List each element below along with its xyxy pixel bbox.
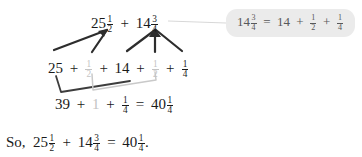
term-half-faded-2: 12 (152, 60, 159, 80)
numerator: 1 (122, 96, 129, 105)
operator-plus: + (293, 15, 306, 28)
denominator: 2 (49, 143, 56, 153)
numerator: 3 (93, 134, 100, 143)
callout-whole-14: 14 (277, 15, 290, 28)
arrow-quarter-to-top (156, 30, 182, 51)
operator-plus: + (133, 61, 147, 76)
operator-plus: + (67, 61, 81, 76)
numerator: 1 (152, 60, 159, 69)
operator-plus: + (320, 15, 333, 28)
fraction: 34 (151, 15, 158, 35)
numerator: 1 (337, 14, 343, 22)
denominator: 2 (310, 23, 316, 32)
operator-plus: + (117, 16, 131, 31)
numerator: 3 (251, 14, 257, 22)
expression-decomposed: 25 + 12 + 14 + 12 + 14 (48, 59, 189, 79)
numerator: 1 (182, 60, 189, 69)
denominator: 4 (151, 24, 158, 34)
denominator: 4 (122, 105, 129, 115)
conclusion-period: . (145, 135, 149, 150)
fraction: 12 (107, 15, 114, 35)
denominator: 4 (251, 23, 257, 32)
whole-part: 14 (136, 16, 151, 31)
term-25: 25 (48, 61, 63, 76)
denominator: 4 (93, 143, 100, 153)
term-result-40-and-a-quarter: 4014 (151, 95, 174, 115)
denominator: 4 (337, 23, 343, 32)
fraction: 14 (167, 96, 174, 116)
denominator: 4 (138, 143, 145, 153)
fraction: 34 (251, 14, 257, 31)
operator-plus: + (96, 61, 110, 76)
explanation-callout: 1434 = 14 + 12 + 14 (226, 9, 355, 37)
conclusion-result: 4014 (122, 133, 145, 153)
denominator: 4 (167, 105, 174, 115)
term-one-faded: 1 (92, 97, 100, 112)
whole-part: 14 (237, 14, 250, 29)
numerator: 1 (49, 134, 56, 143)
expression-original: 2512 + 1434 (91, 14, 158, 34)
callout-fraction-half: 12 (310, 14, 316, 31)
whole-part: 25 (91, 16, 106, 31)
fraction: 14 (138, 134, 145, 154)
expression-regrouped-sum: 39 + 1 + 14 = 4014 (55, 95, 174, 115)
denominator: 2 (85, 69, 92, 79)
operator-equals: = (260, 15, 273, 28)
numerator: 1 (310, 14, 316, 22)
numerator: 1 (167, 96, 174, 105)
denominator: 4 (182, 69, 189, 79)
callout-fraction-quarter: 14 (337, 14, 343, 31)
term-39: 39 (55, 97, 70, 112)
whole-part: 40 (151, 96, 166, 112)
term-quarter: 14 (122, 96, 129, 116)
whole-part: 25 (33, 134, 48, 150)
conclusion-prefix: So, (6, 135, 26, 150)
denominator: 2 (152, 69, 159, 79)
term-14: 14 (115, 61, 130, 76)
term-quarter: 14 (182, 60, 189, 80)
term-25-and-a-half: 2512 (91, 14, 114, 34)
numerator: 3 (151, 15, 158, 24)
operator-plus: + (103, 97, 117, 112)
fraction: 34 (93, 134, 100, 154)
numerator: 1 (85, 60, 92, 69)
numerator: 1 (107, 15, 114, 24)
numerator: 1 (138, 134, 145, 143)
operator-equals: = (104, 135, 118, 150)
conclusion-term-2: 1434 (78, 133, 101, 153)
callout-leader-line (168, 21, 226, 23)
fraction: 12 (49, 134, 56, 154)
term-half-faded: 12 (85, 60, 92, 80)
whole-part: 14 (78, 134, 93, 150)
operator-plus: + (163, 61, 177, 76)
callout-term-mixed: 1434 (237, 14, 257, 31)
conclusion-statement: So, 2512 + 1434 = 4014 . (6, 133, 149, 153)
whole-part: 40 (122, 134, 137, 150)
operator-equals: = (133, 97, 147, 112)
operator-plus: + (74, 97, 88, 112)
operator-plus: + (60, 135, 74, 150)
term-14-and-three-quarters: 1434 (136, 14, 159, 34)
denominator: 2 (107, 24, 114, 34)
conclusion-term-1: 2512 (33, 133, 56, 153)
